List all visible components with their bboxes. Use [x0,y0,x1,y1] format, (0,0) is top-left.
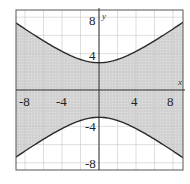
hyperbola-region-chart: x y -8 -4 4 8 8 4 -4 -8 [0,0,190,184]
x-tick-label: -8 [19,94,30,109]
x-tick-label: 4 [131,94,138,109]
y-axis-label: y [101,11,106,21]
y-tick-label: -8 [85,156,96,171]
x-axis-label: x [177,77,182,87]
y-tick-label: 4 [89,48,96,63]
y-tick-label: 8 [89,13,96,28]
x-tick-label: 8 [167,94,174,109]
y-tick-label: -4 [85,119,96,134]
x-tick-label: -4 [56,94,67,109]
